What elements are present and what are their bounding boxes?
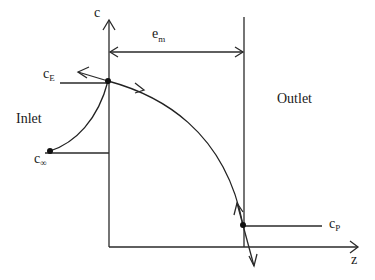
cinf-point <box>47 148 53 154</box>
cE-label: cE <box>43 66 55 83</box>
z-axis <box>109 241 358 253</box>
membrane-profile-curve <box>108 81 243 225</box>
cP-label: cP <box>329 216 340 233</box>
em-label: em <box>152 26 165 44</box>
concentration-profile-diagram: c z em Inlet Outlet cE c∞ cP <box>0 0 375 280</box>
z-axis-label: z <box>351 252 357 267</box>
em-dimension <box>110 47 243 57</box>
cE-point <box>105 78 111 84</box>
cP-point <box>240 222 246 228</box>
cP-tangent-line <box>237 203 254 266</box>
inlet-label: Inlet <box>16 111 42 126</box>
cinf-label: c∞ <box>34 151 47 168</box>
c-axis-label: c <box>94 5 100 20</box>
cE-tangent-arrow-icon <box>78 67 89 78</box>
cE-tangent-line <box>78 72 108 81</box>
curve-direction-arrow-icon <box>135 83 144 93</box>
outlet-label: Outlet <box>277 91 312 106</box>
inlet-profile-curve <box>50 81 108 151</box>
